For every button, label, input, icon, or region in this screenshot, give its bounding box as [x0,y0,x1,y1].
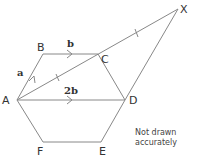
vector-label-2b: 2b [64,85,78,96]
hexagon-ABCDEF [17,54,125,142]
vertex-label-C: C [101,53,109,66]
vector-label-b: b [67,38,74,49]
line-AX [17,9,178,100]
line-DX [125,9,178,100]
vertex-label-D: D [129,94,137,107]
note-line-1: Not drawn [135,128,177,138]
vertex-label-A: A [2,94,10,107]
vertex-label-X: X [180,3,188,16]
note-line-2: accurately [135,138,177,148]
not-drawn-accurately-note: Not drawn accurately [135,128,177,148]
vector-label-a: a [17,67,24,78]
vertex-label-E: E [99,145,106,158]
vertex-label-F: F [37,145,43,158]
vertex-label-B: B [37,41,45,54]
